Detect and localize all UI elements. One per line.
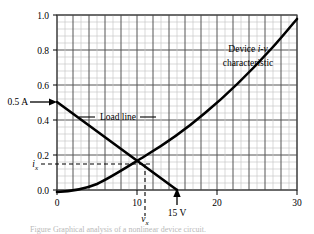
- y-tick-label-0.4: 0.4: [37, 116, 49, 126]
- y-intercept-arrow: [30, 99, 57, 106]
- y-tick-label-0.0: 0.0: [37, 186, 49, 196]
- plot-area: 1.0 0.8 0.6 0.4 0.2 0.0 0 10 20 30: [0, 0, 314, 234]
- x-intercept-label: 15 V: [168, 208, 187, 218]
- device-curve-label-device: Device: [228, 44, 255, 54]
- iv-characteristic-chart: 1.0 0.8 0.6 0.4 0.2 0.0 0 10 20 30: [0, 0, 314, 234]
- device-curve-label-line1: Device i-v: [228, 44, 268, 54]
- y-tick-label-0.6: 0.6: [37, 81, 49, 91]
- y-tick-label-0.2: 0.2: [37, 151, 49, 161]
- y-intercept-label: 0.5 A: [7, 97, 28, 107]
- x-tick-label-0: 0: [55, 198, 60, 208]
- x-tick-label-20: 20: [212, 198, 222, 208]
- y-tick-label-1.0: 1.0: [37, 11, 49, 21]
- ix-label: ix: [32, 159, 39, 172]
- device-curve-label-line2: characteristic: [223, 58, 274, 68]
- figure-caption: Figure Graphical analysis of a nonlinear…: [30, 225, 314, 234]
- x-tick-label-30: 30: [292, 198, 302, 208]
- device-curve-label-iv: i-v: [258, 44, 269, 54]
- figure-root: 1.0 0.8 0.6 0.4 0.2 0.0 0 10 20 30: [0, 0, 314, 234]
- y-tick-label-0.8: 0.8: [37, 46, 49, 56]
- x-tick-label-10: 10: [132, 198, 142, 208]
- ix-label-sub: x: [34, 164, 39, 172]
- load-line-label: Load line: [100, 112, 136, 122]
